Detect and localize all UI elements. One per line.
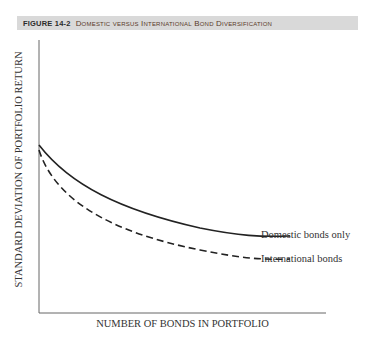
legend-international: International bonds: [261, 253, 342, 264]
legend-domestic: Domestic bonds only: [261, 229, 350, 240]
x-axis-label: NUMBER OF BONDS IN PORTFOLIO: [39, 318, 326, 329]
y-axis-label: STANDARD DEVIATION OF PORTFOLIO RETURN: [13, 40, 24, 300]
international-bonds-curve: [39, 150, 290, 259]
line-chart: [0, 0, 383, 342]
domestic-bonds-curve: [39, 145, 290, 236]
